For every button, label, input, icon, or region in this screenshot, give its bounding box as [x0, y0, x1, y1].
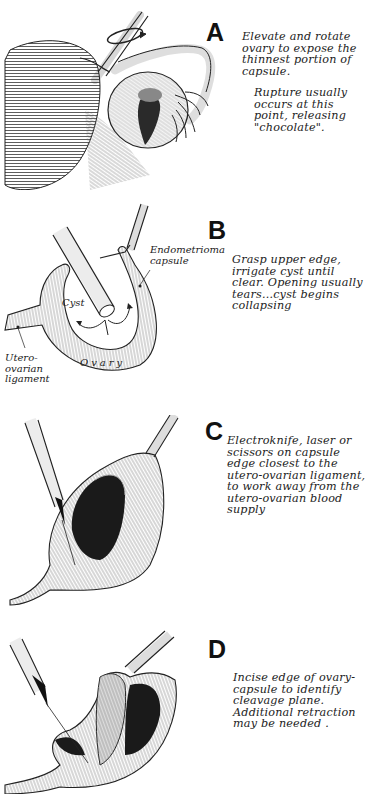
caption-d: Incise edge of ovary- capsule to identif…: [233, 672, 356, 730]
note-a-rupture: Rupture usually occurs at this point, re…: [254, 87, 347, 133]
panel-letter-b: B: [208, 218, 226, 243]
panel-letter-d: D: [208, 637, 226, 662]
panel-a: A Elevate and rotate ovary to expose the…: [0, 0, 381, 190]
caption-b: Grasp upper edge, irrigate cyst until cl…: [232, 254, 363, 312]
label-utero-ovarian-ligament: Utero- ovarian ligament: [5, 353, 50, 385]
caption-a: Elevate and rotate ovary to expose the t…: [242, 31, 357, 77]
illustration-cleavage-plane: [0, 615, 240, 794]
panel-c: C Electroknife, laser or scissors on cap…: [0, 415, 381, 615]
illustration-capsule-incision: [0, 415, 220, 615]
panel-letter-a: A: [206, 20, 224, 45]
label-ovary: Ovary: [80, 358, 125, 369]
panel-letter-c: C: [205, 419, 223, 444]
illustration-ovary-elevation: [0, 0, 240, 190]
caption-c: Electroknife, laser or scissors on capsu…: [227, 435, 365, 516]
label-cyst: Cyst: [62, 298, 84, 309]
panel-d: D Incise edge of ovary- capsule to ident…: [0, 615, 381, 794]
label-endometrioma-capsule: Endometrioma capsule: [150, 245, 225, 266]
panel-b: B Endometrioma capsule Cyst Ovary Utero-…: [0, 190, 381, 415]
